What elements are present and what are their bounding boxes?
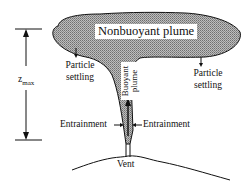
zmax-up-arrow-icon: [23, 29, 29, 37]
buoyant-plume-label: Buoyant plume: [121, 62, 143, 100]
particle-settling-left-label: Particle settling: [58, 61, 102, 82]
ground-line: [72, 156, 230, 180]
vent-conduit: [126, 144, 130, 157]
settling-arrow-right-icon: [199, 63, 203, 67]
zmax-down-arrow-icon: [23, 132, 29, 140]
particle-settling-right-label: Particle settling: [186, 69, 230, 90]
entrainment-left-label: Entrainment: [60, 120, 107, 130]
nonbuoyant-plume-label: Nonbuoyant plume: [95, 24, 197, 39]
zmax-label: zmax: [18, 75, 34, 87]
entrainment-right-label: Entrainment: [143, 120, 190, 130]
vent-label: Vent: [117, 160, 134, 170]
settling-arrow-left-icon: [74, 54, 78, 58]
